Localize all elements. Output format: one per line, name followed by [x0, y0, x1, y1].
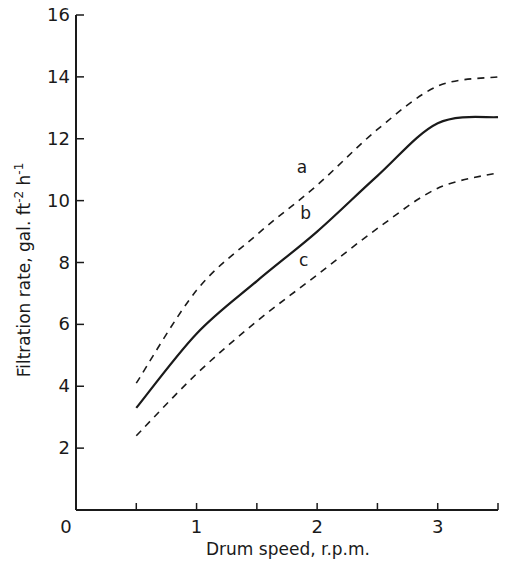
y-axis-title: Filtration rate, gal. ft-2 h-1	[12, 163, 34, 378]
curve-c	[136, 173, 498, 436]
y-axis-title-mid: h	[14, 175, 34, 191]
y-axis-title-sup2: -1	[12, 163, 26, 175]
y-axis-title-sup1: -2	[12, 191, 26, 203]
curve-b	[136, 117, 498, 408]
curves	[136, 77, 498, 436]
curve-label-a: a	[297, 157, 307, 177]
x-tick-label: 0	[60, 516, 71, 537]
curve-label-b: b	[300, 203, 311, 223]
y-tick-label: 4	[59, 375, 70, 396]
axes	[76, 15, 498, 510]
curve-a	[136, 77, 498, 383]
y-tick-label: 12	[47, 128, 70, 149]
y-tick-label: 2	[59, 437, 70, 458]
x-axis-title: Drum speed, r.p.m.	[206, 539, 370, 559]
y-tick-label: 6	[59, 313, 70, 334]
x-tick-label: 3	[432, 516, 443, 537]
y-ticks: 246810121416	[47, 4, 84, 458]
x-ticks: 0123	[60, 503, 498, 537]
y-tick-label: 16	[47, 4, 70, 25]
filtration-rate-chart: 0123 246810121416 abc Drum speed, r.p.m.…	[0, 0, 512, 570]
y-tick-label: 8	[59, 252, 70, 273]
curve-label-c: c	[299, 250, 308, 270]
y-tick-label: 14	[47, 66, 70, 87]
x-tick-label: 1	[191, 516, 202, 537]
curve-labels: abc	[297, 157, 311, 270]
y-axis-title-main: Filtration rate, gal. ft	[14, 203, 34, 378]
y-tick-label: 10	[47, 190, 70, 211]
x-tick-label: 2	[311, 516, 322, 537]
